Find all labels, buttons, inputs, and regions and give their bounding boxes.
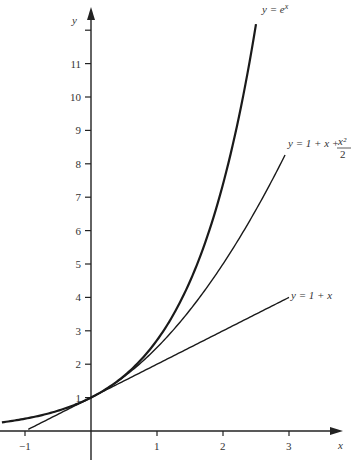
curve-labels: y = ex y = 1 + x + x² 2 y = 1 + x [261,2,351,301]
x-tick-label: 3 [286,440,292,452]
x-axis-label: x [337,439,343,451]
y-tick-label: 4 [76,291,82,303]
y-tick-label: 7 [76,191,82,203]
label-exp: y = ex [261,2,289,15]
x-tick-label: −1 [19,440,31,452]
y-tick-label: 2 [76,358,82,370]
x-ticks: −1123 [19,431,292,452]
label-linear: y = 1 + x [290,289,332,301]
y-axis-arrow-icon [87,7,95,20]
curve-quadratic [75,155,286,405]
label-quadratic-numerator: x² [337,135,347,147]
x-tick-label: 1 [154,440,160,452]
label-quadratic-denominator: 2 [340,148,346,160]
y-tick-label: 9 [76,124,82,136]
y-ticks: 1234567891011 [70,30,91,403]
curves [2,24,289,429]
y-tick-label: 5 [76,258,82,270]
y-tick-label: 6 [76,225,82,237]
y-tick-label: 11 [70,58,81,70]
x-axis-arrow-icon [330,427,343,435]
label-quadratic: y = 1 + x + [287,137,339,149]
axes: x y [0,7,343,460]
curve-linear [28,297,289,429]
curve-exp [2,24,256,422]
y-tick-label: 10 [70,91,82,103]
x-tick-label: 2 [220,440,226,452]
chart: x y −1123 1234567891011 y = ex y = 1 + x… [0,0,359,465]
y-tick-label: 3 [76,325,82,337]
y-tick-label: 8 [76,158,82,170]
y-axis-label: y [71,14,77,26]
